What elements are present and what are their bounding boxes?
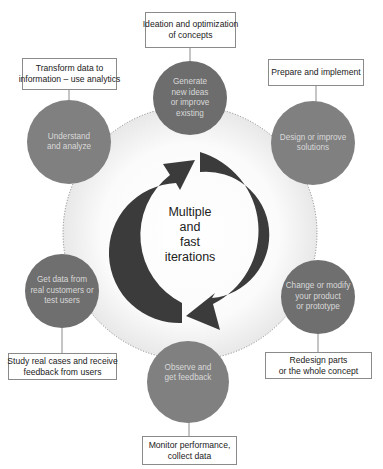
box-observe: Monitor performance, collect data bbox=[142, 436, 237, 465]
iteration-cycle-diagram: Generate new ideas or improve existing D… bbox=[0, 0, 383, 469]
box-generate: Ideation and optimization of concepts bbox=[145, 12, 236, 48]
box-design: Prepare and implement bbox=[268, 59, 364, 86]
node-label-design: Design or improve solutions bbox=[271, 101, 355, 185]
box-change: Redesign parts or the whole concept bbox=[265, 352, 372, 379]
node-label-get-data: Get data from real customers or test use… bbox=[25, 254, 99, 328]
box-get-data: Study real cases and receive feedback fr… bbox=[8, 353, 117, 380]
center-label: Multiple and fast iterations bbox=[140, 205, 240, 265]
node-label-generate: Generate new ideas or improve existing bbox=[153, 61, 227, 135]
box-understand: Transform data to information – use anal… bbox=[22, 58, 117, 90]
node-label-observe: Observe and get feedback bbox=[147, 356, 229, 390]
node-label-change: Change or modify your product or prototy… bbox=[281, 260, 355, 334]
node-label-understand: Understand and analyze bbox=[27, 100, 111, 184]
